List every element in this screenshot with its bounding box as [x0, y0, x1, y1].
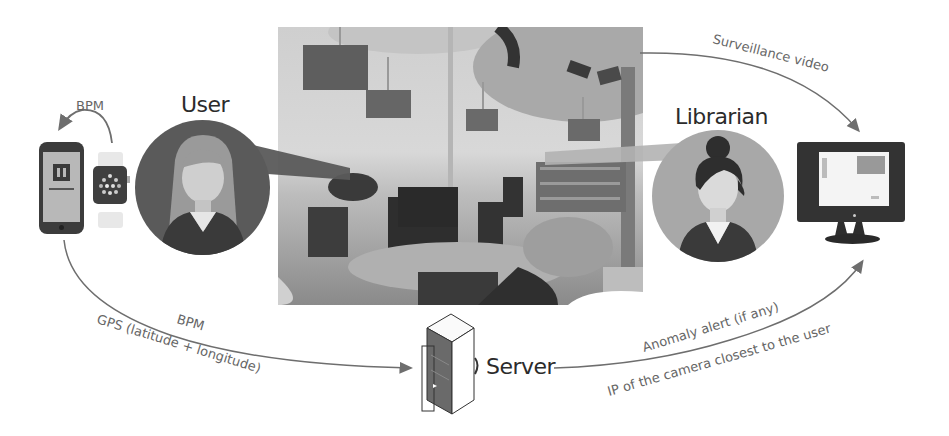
flow-layer: BPM BPM GPS (latitude + longitude) Surve… [0, 0, 949, 436]
label-watch-to-phone: BPM [76, 98, 104, 113]
label-camera-ip: IP of the camera closest to the user [606, 320, 833, 398]
label-phone-to-server-bpm: BPM [175, 311, 206, 333]
arrow-server-to-monitor [554, 262, 862, 368]
label-surveillance-video: Surveillance video [711, 31, 830, 74]
arrow-phone-to-server [64, 240, 410, 368]
arrow-watch-to-phone [60, 110, 112, 143]
